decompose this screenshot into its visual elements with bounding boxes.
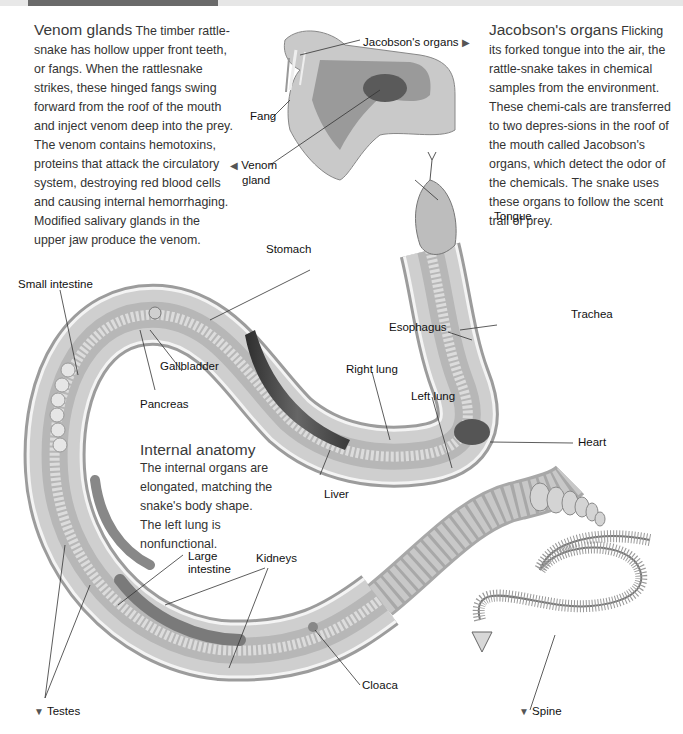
label-jacobsons-organs: Jacobson's organs ▶ bbox=[363, 36, 470, 48]
label-pancreas: Pancreas bbox=[140, 398, 189, 410]
label-small-intestine: Small intestine bbox=[18, 278, 93, 290]
label-tongue: Tongue bbox=[494, 210, 532, 222]
label-gallbladder: Gallbladder bbox=[160, 360, 219, 372]
label-venom-gland: ◀ Venom gland bbox=[230, 158, 277, 187]
label-spine: ▼ Spine bbox=[519, 705, 562, 717]
label-stomach: Stomach bbox=[266, 243, 311, 255]
label-right-lung: Right lung bbox=[346, 363, 398, 375]
jacobsons-organs-body: Flicking its forked tongue into the air,… bbox=[489, 24, 671, 228]
snake-body-cutaway bbox=[50, 245, 560, 651]
snake-head-illustration bbox=[284, 31, 455, 180]
jacobsons-organs-paragraph: Jacobson's organs Flicking its forked to… bbox=[489, 20, 674, 231]
venom-glands-body: The timber rattle-snake has hollow upper… bbox=[34, 24, 233, 247]
label-kidneys: Kidneys bbox=[256, 552, 297, 564]
left-triangle-icon: ◀ bbox=[230, 159, 238, 173]
label-cloaca: Cloaca bbox=[362, 679, 398, 691]
internal-anatomy-body: The internal organs are elongated, match… bbox=[140, 459, 275, 554]
internal-anatomy-title: Internal anatomy bbox=[140, 440, 275, 459]
down-triangle-icon: ▼ bbox=[519, 706, 529, 717]
venom-glands-paragraph: Venom glands The timber rattle-snake has… bbox=[34, 20, 234, 250]
label-large-intestine: Large intestine bbox=[188, 550, 231, 576]
label-left-lung: Left lung bbox=[411, 390, 455, 402]
down-triangle-icon: ▼ bbox=[34, 706, 44, 717]
label-liver: Liver bbox=[324, 488, 349, 500]
internal-anatomy-paragraph: Internal anatomy The internal organs are… bbox=[140, 440, 275, 554]
label-trachea: Trachea bbox=[571, 308, 613, 320]
label-heart: Heart bbox=[578, 436, 606, 448]
right-triangle-icon: ▶ bbox=[462, 37, 470, 48]
snake-top-head-illustration bbox=[415, 152, 456, 254]
label-esophagus: Esophagus bbox=[389, 321, 447, 333]
label-fang: Fang bbox=[250, 110, 276, 122]
label-testes: ▼ Testes bbox=[34, 705, 80, 717]
jacobsons-organs-title: Jacobson's organs bbox=[489, 21, 618, 38]
venom-glands-title: Venom glands bbox=[34, 21, 132, 38]
